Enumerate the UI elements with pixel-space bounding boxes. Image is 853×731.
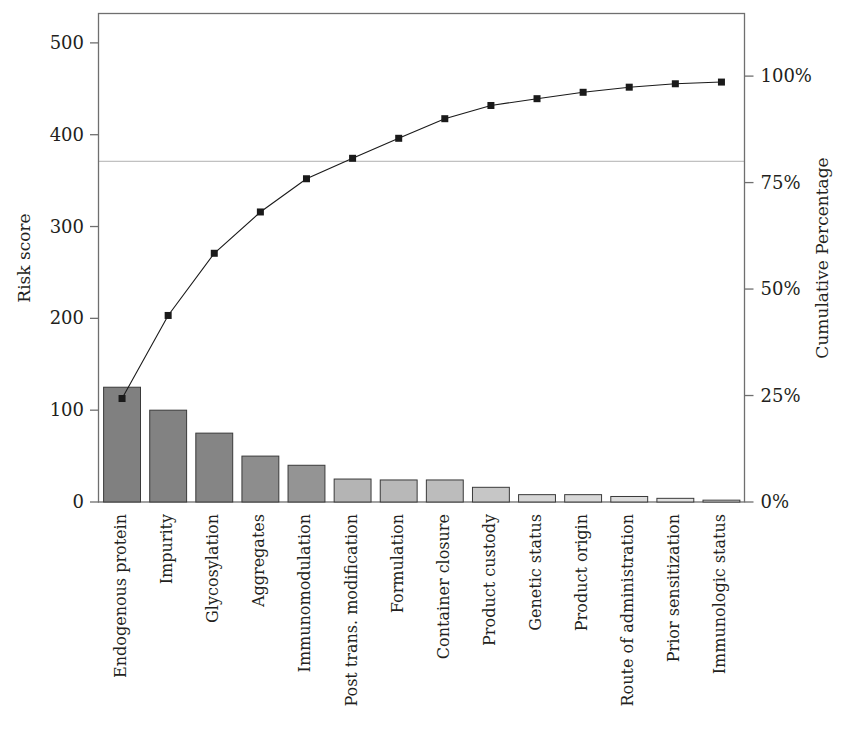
bar: [657, 498, 694, 502]
category-label: Immunomodulation: [295, 514, 314, 672]
secondary-y-axis-tick-label: 25%: [761, 385, 801, 406]
y-axis-title: Risk score: [14, 213, 34, 302]
cumulative-marker: [441, 115, 448, 122]
secondary-y-axis-tick-label: 100%: [761, 65, 812, 86]
cumulative-marker: [303, 175, 310, 182]
category-label: Route of administration: [618, 514, 637, 706]
secondary-y-axis-tick-label: 75%: [761, 172, 801, 193]
category-label: Container closure: [434, 514, 453, 659]
category-label: Product custody: [480, 514, 499, 646]
category-label: Endogenous protein: [111, 514, 130, 678]
cumulative-marker: [534, 95, 541, 102]
cumulative-marker: [257, 208, 264, 215]
cumulative-marker: [718, 79, 725, 86]
category-label: Immunologic status: [710, 514, 729, 674]
category-label: Formulation: [388, 514, 407, 613]
bar: [519, 495, 556, 502]
bar: [426, 480, 463, 502]
bar: [242, 456, 279, 502]
bar: [380, 480, 417, 502]
cumulative-marker: [211, 250, 218, 257]
secondary-y-axis-tick-label: 50%: [761, 278, 801, 299]
y-axis-tick-label: 500: [50, 32, 84, 53]
category-label: Aggregates: [249, 514, 268, 608]
bar: [611, 496, 648, 502]
y-axis-tick-label: 200: [50, 307, 84, 328]
bar: [150, 410, 187, 502]
cumulative-marker: [165, 312, 172, 319]
category-label: Glycosylation: [203, 514, 222, 623]
category-label: Prior sensitization: [664, 514, 683, 662]
y-axis-tick-label: 300: [50, 216, 84, 237]
bar: [104, 387, 141, 502]
cumulative-marker: [672, 80, 679, 87]
bar: [334, 479, 371, 502]
cumulative-marker: [395, 135, 402, 142]
secondary-y-axis-tick-label: 0%: [761, 491, 790, 512]
secondary-y-axis-title: Cumulative Percentage: [812, 157, 832, 358]
category-label: Impurity: [157, 514, 176, 584]
bar: [703, 500, 740, 502]
cumulative-marker: [580, 89, 587, 96]
cumulative-marker: [626, 84, 633, 91]
cumulative-marker: [487, 102, 494, 109]
cumulative-marker: [349, 155, 356, 162]
bar: [196, 433, 233, 502]
cumulative-marker: [119, 395, 126, 402]
category-label: Genetic status: [526, 514, 545, 631]
bar: [288, 465, 325, 502]
bar: [565, 495, 602, 502]
y-axis-tick-label: 400: [50, 124, 84, 145]
category-label: Post trans. modification: [342, 514, 361, 707]
bar: [472, 487, 509, 502]
chart-canvas: 0100200300400500 0%25%50%75%100% Endogen…: [0, 0, 853, 731]
pareto-chart: 0100200300400500 0%25%50%75%100% Endogen…: [0, 0, 853, 731]
category-label: Product origin: [572, 514, 591, 631]
y-axis-tick-label: 0: [73, 491, 84, 512]
y-axis-tick-label: 100: [50, 399, 84, 420]
